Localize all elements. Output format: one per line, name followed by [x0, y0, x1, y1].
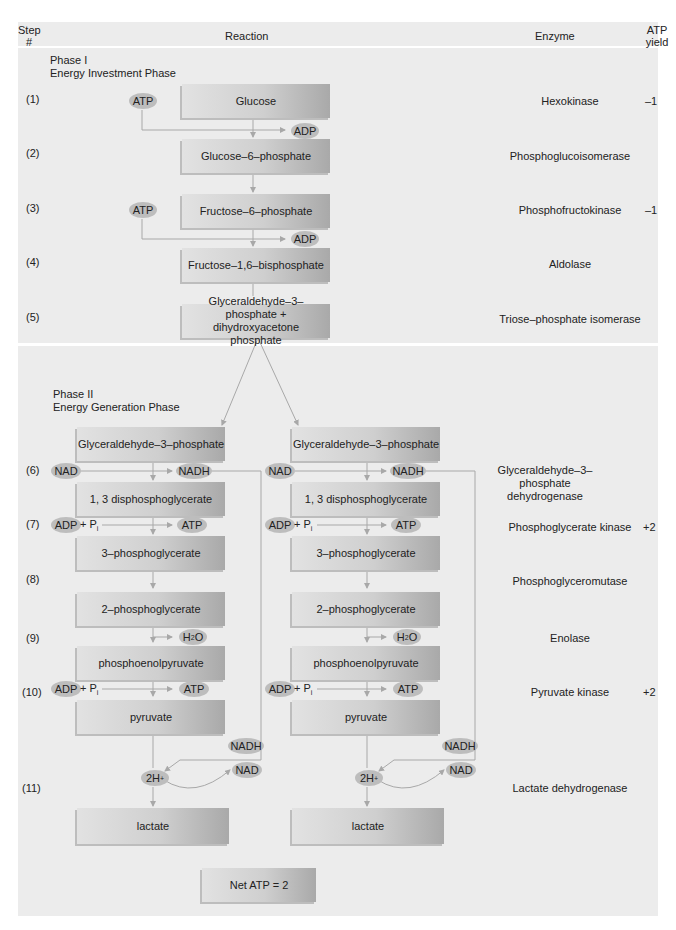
- metabolite-box-glucose: Glucose: [182, 84, 330, 118]
- nad-pill: NAD: [51, 463, 81, 479]
- atp-pill: ATP: [177, 517, 207, 533]
- metabolite-box-lactate-right: lactate: [292, 808, 444, 844]
- enzyme-label: Enolase: [470, 632, 670, 645]
- pi-label: + Pi: [80, 682, 98, 696]
- adp-pill: ADP: [51, 681, 81, 697]
- pi-label: + Pi: [80, 518, 98, 532]
- metabolite-box-pyruvate-left: pyruvate: [77, 700, 225, 734]
- metabolite-box-13bpg-left: 1, 3 disphosphoglycerate: [77, 482, 225, 516]
- metabolite-box-g3p-right: Glyceraldehyde–3–phosphate: [292, 427, 440, 461]
- nad-pill: NAD: [232, 762, 262, 778]
- step-number: (8): [26, 573, 39, 585]
- net-atp-box: Net ATP = 2: [202, 868, 316, 902]
- atp-pill: ATP: [129, 202, 157, 218]
- metabolite-box-lactate-left: lactate: [77, 808, 229, 844]
- metabolite-box-pep-left: phosphoenolpyruvate: [77, 646, 225, 680]
- atp-yield-value: –1: [645, 204, 657, 216]
- atp-pill: ATP: [129, 93, 157, 109]
- pi-label: + Pi: [294, 682, 312, 696]
- metabolite-box-13bpg-right: 1, 3 disphosphoglycerate: [292, 482, 440, 516]
- step-number: (2): [26, 147, 39, 159]
- step-number: (9): [26, 632, 39, 644]
- nadh-pill: NADH: [390, 463, 426, 479]
- h2o-pill: H2O: [179, 629, 207, 645]
- enzyme-label: Lactate dehydrogenase: [470, 782, 670, 795]
- enzyme-label: Phosphofructokinase: [470, 204, 670, 217]
- atp-yield-value: +2: [643, 521, 656, 533]
- enzyme-label: Phosphoglyceromutase: [470, 575, 670, 588]
- two-h-pill: 2H+: [141, 770, 169, 786]
- atp-pill: ATP: [393, 681, 423, 697]
- metabolite-box-fructose-1-6-bisphosphate: Fructose–1,6–bisphosphate: [182, 248, 330, 282]
- step-number: (4): [26, 256, 39, 268]
- step-number: (10): [22, 686, 42, 698]
- metabolite-box-3pg-right: 3–phosphoglycerate: [292, 536, 440, 570]
- nadh-pill: NADH: [176, 463, 212, 479]
- adp-pill: ADP: [265, 681, 295, 697]
- nadh-pill: NADH: [228, 738, 264, 754]
- step-number: (7): [26, 518, 39, 530]
- metabolite-box-3pg-left: 3–phosphoglycerate: [77, 536, 225, 570]
- adp-pill: ADP: [291, 231, 319, 247]
- step-number: (1): [26, 93, 39, 105]
- h2o-pill: H2O: [393, 629, 421, 645]
- metabolite-box-g3p-left: Glyceraldehyde–3–phosphate: [77, 427, 225, 461]
- step-number: (6): [26, 464, 39, 476]
- enzyme-label: Pyruvate kinase: [470, 686, 670, 699]
- adp-pill: ADP: [291, 123, 319, 139]
- enzyme-label: Phosphoglucoisomerase: [470, 150, 670, 163]
- metabolite-box-2pg-right: 2–phosphoglycerate: [292, 592, 440, 626]
- nadh-pill: NADH: [442, 738, 478, 754]
- enzyme-label: Glyceraldehyde–3–phosphate dehydrogenase: [480, 464, 610, 503]
- metabolite-box-glucose-6-phosphate: Glucose–6–phosphate: [182, 139, 330, 173]
- metabolite-box-pep-right: phosphoenolpyruvate: [292, 646, 440, 680]
- two-h-pill: 2H+: [355, 770, 383, 786]
- adp-pill: ADP: [51, 517, 81, 533]
- nad-pill: NAD: [446, 762, 476, 778]
- enzyme-label: Aldolase: [470, 258, 670, 271]
- pi-label: + Pi: [294, 518, 312, 532]
- enzyme-label: Hexokinase: [470, 95, 670, 108]
- metabolite-box-g3p-dhap: Glyceraldehyde–3–phosphate + dihydroxyac…: [182, 304, 330, 338]
- step-number: (5): [26, 311, 39, 323]
- atp-yield-value: –1: [645, 95, 657, 107]
- metabolite-box-2pg-left: 2–phosphoglycerate: [77, 592, 225, 626]
- metabolite-box-pyruvate-right: pyruvate: [292, 700, 440, 734]
- adp-pill: ADP: [265, 517, 295, 533]
- atp-pill: ATP: [391, 517, 421, 533]
- nad-pill: NAD: [265, 463, 295, 479]
- enzyme-label: Triose–phosphate isomerase: [470, 313, 670, 326]
- atp-yield-value: +2: [643, 686, 656, 698]
- step-number: (11): [22, 782, 41, 794]
- enzyme-label: Phosphoglycerate kinase: [470, 521, 670, 534]
- step-number: (3): [26, 202, 39, 214]
- atp-pill: ATP: [179, 681, 209, 697]
- metabolite-box-fructose-6-phosphate: Fructose–6–phosphate: [182, 194, 330, 228]
